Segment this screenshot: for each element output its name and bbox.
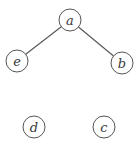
node-label: b xyxy=(118,56,126,71)
node-c: c xyxy=(93,116,115,138)
node-d: d xyxy=(23,116,45,138)
node-b: b xyxy=(111,52,133,74)
node-e: e xyxy=(6,50,28,72)
node-label: e xyxy=(13,54,21,69)
node-a: a xyxy=(59,9,81,31)
node-label: c xyxy=(100,120,108,135)
node-label: d xyxy=(30,120,38,135)
edge-a-b xyxy=(78,27,113,56)
node-label: a xyxy=(66,13,74,28)
graph-diagram: aebdc xyxy=(0,0,139,148)
nodes-group: aebdc xyxy=(6,9,133,138)
edge-a-e xyxy=(26,27,62,55)
